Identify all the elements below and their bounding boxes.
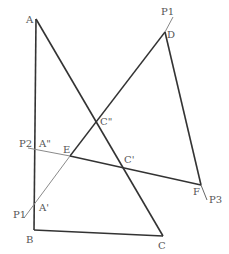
geometry-diagram: A B C D P1 C" P2 A" E C' F P3 P1 A' bbox=[0, 0, 229, 254]
label-P1-bottom: P1 bbox=[13, 209, 26, 220]
label-C: C bbox=[158, 240, 166, 251]
label-P2: P2 bbox=[19, 138, 32, 149]
label-C-prime: C' bbox=[124, 154, 134, 165]
line-P2-dark bbox=[70, 156, 201, 185]
label-P3: P3 bbox=[209, 194, 222, 205]
label-B: B bbox=[26, 234, 33, 245]
label-E: E bbox=[63, 144, 70, 155]
label-C-double-prime: C" bbox=[100, 116, 112, 127]
diagram-svg: A B C D P1 C" P2 A" E C' F P3 P1 A' bbox=[0, 0, 229, 254]
label-A: A bbox=[25, 14, 34, 25]
segment-AB bbox=[34, 19, 36, 230]
segment-AC bbox=[36, 19, 163, 236]
label-A-double-prime: A" bbox=[38, 138, 51, 149]
segment-BC bbox=[34, 230, 163, 236]
segment-DF bbox=[165, 32, 201, 185]
label-A-prime: A' bbox=[38, 202, 49, 213]
label-D: D bbox=[167, 29, 175, 40]
label-P1-top: P1 bbox=[161, 6, 174, 17]
label-F: F bbox=[193, 186, 200, 197]
line-P1-dark bbox=[70, 32, 165, 156]
segment-F-P3 bbox=[201, 185, 207, 200]
